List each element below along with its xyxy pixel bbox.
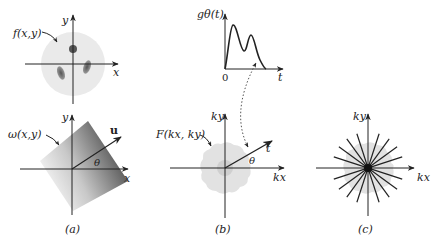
slice-t-label: t <box>266 142 271 155</box>
angle-theta-label: θ <box>94 157 100 168</box>
vector-u-label: u <box>110 124 118 137</box>
x-axis-label: x <box>124 172 131 185</box>
panel-a-bottom: x y u θ ω(x,y) <box>8 111 131 215</box>
y-axis-label: y <box>61 14 69 27</box>
function-label: F(kx, ky) <box>155 128 205 141</box>
ky-axis-label: ky <box>211 110 225 123</box>
caption-b: (b) <box>215 223 231 236</box>
function-label: f(x,y) <box>12 27 42 40</box>
function-label: gθ(t) <box>197 8 224 21</box>
panel-b-bottom: t θ kx ky F(kx, ky) <box>155 110 287 218</box>
projection-profile-curve <box>225 25 266 69</box>
k-space-center <box>364 164 372 172</box>
panel-c: kx ky <box>316 110 431 216</box>
pointer-arrow <box>46 135 59 145</box>
function-label: ω(x,y) <box>8 128 41 141</box>
tomography-figure: x y f(x,y) x y u θ ω(x,y) gθ(t) 0 t t θ … <box>0 0 441 243</box>
y-axis-label: y <box>61 111 69 124</box>
panel-a-top: x y f(x,y) <box>12 14 120 104</box>
kx-axis-label: kx <box>273 171 287 184</box>
slice-correspondence-arrow <box>241 63 256 147</box>
angle-theta-label: θ <box>249 155 255 166</box>
ky-axis-label: ky <box>353 110 367 123</box>
kx-axis-label: kx <box>417 171 431 184</box>
t-axis-label: t <box>278 71 283 84</box>
panel-b-top: gθ(t) 0 t <box>197 8 283 84</box>
caption-c: (c) <box>358 223 373 236</box>
origin-label: 0 <box>222 72 228 83</box>
caption-a: (a) <box>65 223 80 236</box>
x-axis-label: x <box>113 66 120 79</box>
